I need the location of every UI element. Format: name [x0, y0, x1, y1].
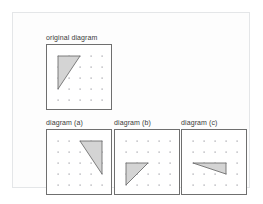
- grid-dot: [226, 141, 227, 142]
- grid-dot: [193, 141, 194, 142]
- grid-dot: [148, 174, 149, 175]
- grid-dot: [102, 100, 103, 101]
- triangle-shape: [193, 163, 226, 174]
- grid-dot: [80, 174, 81, 175]
- grid-dot: [215, 152, 216, 153]
- grid-dot: [80, 78, 81, 79]
- grid-dot: [80, 100, 81, 101]
- diagram-canvas-a: [47, 130, 113, 196]
- grid-dot: [159, 174, 160, 175]
- grid-dot: [91, 67, 92, 68]
- figure-box-original: [46, 44, 112, 110]
- grid-dot: [126, 152, 127, 153]
- grid-dot: [102, 56, 103, 57]
- figure-label-c: diagram (c): [181, 118, 247, 127]
- figure-label-a: diagram (a): [46, 118, 112, 127]
- grid-dot: [69, 174, 70, 175]
- grid-dot: [102, 89, 103, 90]
- grid-dot: [91, 89, 92, 90]
- grid-dot: [69, 100, 70, 101]
- figure-box-c: [181, 129, 247, 195]
- grid-dot: [91, 56, 92, 57]
- grid-dot: [237, 152, 238, 153]
- grid-dot: [137, 185, 138, 186]
- diagram-canvas-c: [182, 130, 248, 196]
- grid-dot: [58, 152, 59, 153]
- grid-dot: [91, 185, 92, 186]
- diagram-canvas-original: [47, 45, 113, 111]
- grid-dot: [80, 89, 81, 90]
- grid-dot: [102, 67, 103, 68]
- figure-diagram-b: diagram (b): [114, 118, 180, 195]
- grid-dot: [215, 185, 216, 186]
- grid-dot: [204, 174, 205, 175]
- grid-dot: [69, 89, 70, 90]
- triangle-shape: [126, 163, 148, 185]
- grid-dot: [137, 152, 138, 153]
- figure-page: original diagram diagram (a) diagram (b)…: [0, 0, 263, 204]
- grid-dot: [159, 185, 160, 186]
- grid-dot: [148, 185, 149, 186]
- grid-dot: [91, 100, 92, 101]
- grid-dot: [91, 163, 92, 164]
- grid-dot: [69, 152, 70, 153]
- figure-diagram-a: diagram (a): [46, 118, 112, 195]
- grid-dot: [137, 141, 138, 142]
- figure-box-a: [46, 129, 112, 195]
- grid-dot: [237, 141, 238, 142]
- figure-box-b: [114, 129, 180, 195]
- grid-dot: [58, 174, 59, 175]
- triangle-shape: [58, 56, 80, 89]
- grid-dot: [69, 78, 70, 79]
- grid-dot: [80, 67, 81, 68]
- grid-dot: [58, 163, 59, 164]
- figure-original-diagram: original diagram: [46, 33, 112, 110]
- grid-dot: [226, 185, 227, 186]
- grid-dot: [148, 152, 149, 153]
- page-frame: original diagram diagram (a) diagram (b)…: [12, 12, 250, 188]
- grid-dot: [148, 141, 149, 142]
- grid-dot: [159, 163, 160, 164]
- grid-dot: [91, 78, 92, 79]
- grid-dot: [204, 141, 205, 142]
- grid-dot: [159, 152, 160, 153]
- grid-dot: [159, 141, 160, 142]
- grid-dot: [215, 174, 216, 175]
- grid-dot: [193, 174, 194, 175]
- grid-dot: [170, 141, 171, 142]
- figure-diagram-c: diagram (c): [181, 118, 247, 195]
- grid-dot: [237, 163, 238, 164]
- grid-dot: [204, 152, 205, 153]
- grid-dot: [80, 152, 81, 153]
- grid-dot: [69, 141, 70, 142]
- grid-dot: [237, 185, 238, 186]
- grid-dot: [80, 185, 81, 186]
- grid-dot: [102, 185, 103, 186]
- grid-dot: [215, 141, 216, 142]
- figure-label-b: diagram (b): [114, 118, 180, 127]
- grid-dot: [69, 185, 70, 186]
- grid-dot: [80, 163, 81, 164]
- triangle-shape: [80, 141, 102, 174]
- grid-dot: [91, 174, 92, 175]
- grid-dot: [58, 185, 59, 186]
- grid-dot: [126, 141, 127, 142]
- grid-dot: [170, 163, 171, 164]
- figure-label-original: original diagram: [46, 33, 112, 42]
- grid-dot: [170, 152, 171, 153]
- grid-dot: [69, 163, 70, 164]
- grid-dot: [58, 100, 59, 101]
- grid-dot: [204, 185, 205, 186]
- grid-dot: [226, 152, 227, 153]
- grid-dot: [58, 141, 59, 142]
- grid-dot: [170, 185, 171, 186]
- grid-dot: [102, 78, 103, 79]
- grid-dot: [193, 185, 194, 186]
- grid-dot: [237, 174, 238, 175]
- grid-dot: [193, 152, 194, 153]
- grid-dot: [170, 174, 171, 175]
- diagram-canvas-b: [115, 130, 181, 196]
